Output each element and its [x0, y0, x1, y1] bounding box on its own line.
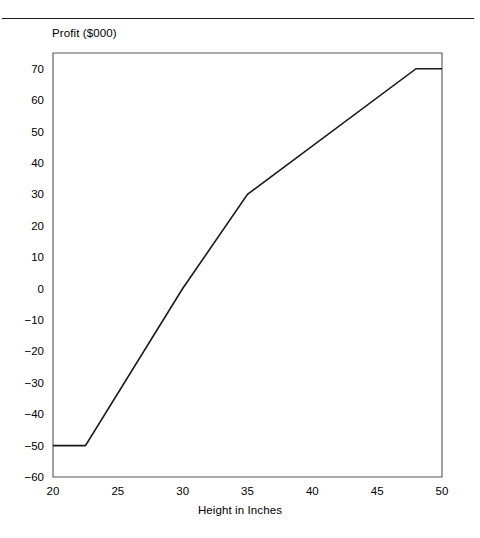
y-tick-label: −60 — [24, 471, 44, 483]
line-chart-svg: −60−50−40−30−20−100102030405060702025303… — [0, 0, 480, 538]
y-tick-label: 30 — [31, 188, 44, 200]
chart-page: Profit ($000) −60−50−40−30−20−1001020304… — [0, 0, 480, 538]
x-tick-label: 25 — [111, 485, 124, 497]
y-tick-label: 0 — [38, 283, 44, 295]
y-tick-label: −40 — [24, 408, 44, 420]
y-tick-label: −10 — [24, 314, 44, 326]
x-tick-label: 20 — [47, 485, 60, 497]
y-tick-label: 50 — [31, 126, 44, 138]
x-tick-label: 30 — [176, 485, 189, 497]
y-tick-label: −50 — [24, 440, 44, 452]
y-tick-label: 70 — [31, 63, 44, 75]
x-axis-title: Height in Inches — [0, 504, 480, 516]
x-tick-label: 50 — [436, 485, 449, 497]
y-tick-label: 20 — [31, 220, 44, 232]
x-tick-label: 40 — [306, 485, 319, 497]
plot-frame — [53, 53, 442, 477]
y-tick-label: −30 — [24, 377, 44, 389]
y-tick-label: 10 — [31, 251, 44, 263]
y-tick-label: 60 — [31, 94, 44, 106]
x-tick-label: 35 — [241, 485, 254, 497]
plot-area-wrapper: −60−50−40−30−20−100102030405060702025303… — [0, 0, 480, 538]
y-tick-label: −20 — [24, 345, 44, 357]
y-tick-label: 40 — [31, 157, 44, 169]
x-tick-label: 45 — [371, 485, 384, 497]
data-line-profit — [53, 69, 442, 446]
